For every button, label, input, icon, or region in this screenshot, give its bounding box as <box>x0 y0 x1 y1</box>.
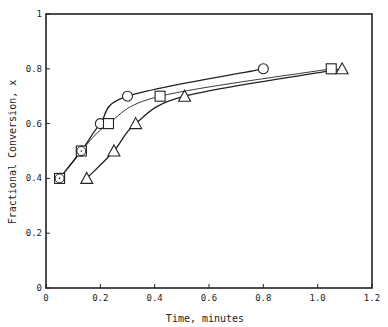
x-tick-label: 0.6 <box>201 293 217 303</box>
x-tick-label: 0 <box>43 293 48 303</box>
triangle-curve <box>87 69 342 179</box>
y-tick-label: 0.8 <box>26 64 42 74</box>
plot-border <box>46 14 372 288</box>
x-axis-label: Time, minutes <box>166 313 244 324</box>
y-tick-label: 0.6 <box>26 119 42 129</box>
y-tick-label: 1 <box>37 9 42 19</box>
y-tick-label: 0.2 <box>26 228 42 238</box>
square-marker <box>103 119 113 129</box>
circle-marker <box>258 64 268 74</box>
center-dot <box>81 150 83 152</box>
plot-frame <box>46 14 372 288</box>
x-tick-label: 0.8 <box>255 293 271 303</box>
square-marker <box>326 64 336 74</box>
center-dot <box>59 178 61 180</box>
circle-curve <box>60 69 264 179</box>
x-tick-label: 1.0 <box>310 293 326 303</box>
x-tick-label: 0.4 <box>147 293 163 303</box>
circle-marker <box>123 91 133 101</box>
y-tick-label: 0.4 <box>26 173 42 183</box>
series-markers <box>55 63 349 184</box>
x-tick-label: 0.2 <box>92 293 108 303</box>
x-tick-label: 1.2 <box>364 293 380 303</box>
triangle-marker <box>336 63 348 74</box>
square-marker <box>155 91 165 101</box>
y-axis-label: Fractional Conversion, x <box>7 80 18 225</box>
y-tick-label: 0 <box>37 283 42 293</box>
chart: 00.20.40.60.81.01.200.20.40.60.81 Time, … <box>0 0 388 327</box>
